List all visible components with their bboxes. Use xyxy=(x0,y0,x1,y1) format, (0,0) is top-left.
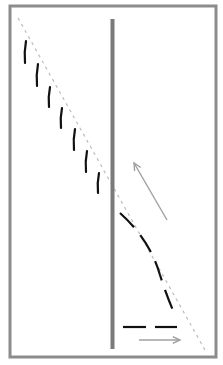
right-trajectory-curve xyxy=(120,213,176,317)
left-trajectory-dashes xyxy=(25,41,99,193)
trajectory-dash xyxy=(86,151,87,172)
diagonal-arrow-icon xyxy=(134,163,167,220)
trajectory-dash xyxy=(98,173,99,193)
direction-arrows xyxy=(134,163,180,343)
trajectory-dash xyxy=(37,64,38,86)
trajectory-dash xyxy=(49,87,50,107)
trajectory-dash xyxy=(74,129,75,150)
diagram-svg xyxy=(0,0,223,365)
horizontal-arrow-icon xyxy=(139,337,180,344)
trajectory-dash xyxy=(25,41,26,63)
trajectory-dash xyxy=(61,108,62,128)
diagram-canvas xyxy=(0,0,223,365)
